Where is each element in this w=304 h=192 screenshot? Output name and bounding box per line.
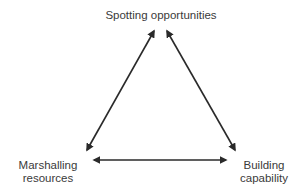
arrow-top-to-left (87, 31, 154, 150)
arrows-layer (0, 0, 304, 192)
arrow-top-to-right (167, 31, 235, 150)
